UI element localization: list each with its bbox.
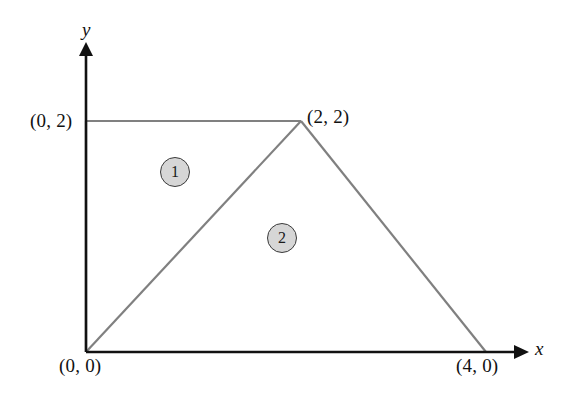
label-0-2: (0, 2): [30, 110, 72, 132]
figure-canvas: [0, 0, 586, 409]
region-badge-1: 1: [160, 157, 190, 187]
y-axis-arrowhead-icon: [79, 42, 93, 56]
geometry-figure: y x (0, 2) (2, 2) (0, 0) (4, 0) 1 2: [0, 0, 586, 409]
label-0-0: (0, 0): [59, 355, 101, 377]
y-axis-label: y: [82, 19, 90, 41]
label-4-0: (4, 0): [456, 355, 498, 377]
x-axis-arrowhead-icon: [514, 345, 529, 359]
region-badge-1-number: 1: [171, 164, 179, 180]
label-2-2: (2, 2): [307, 106, 349, 128]
region-badge-2: 2: [267, 223, 297, 253]
x-axis-label: x: [535, 338, 543, 360]
edge-diagonal-falling: [301, 121, 486, 352]
region-badge-2-number: 2: [278, 230, 286, 246]
